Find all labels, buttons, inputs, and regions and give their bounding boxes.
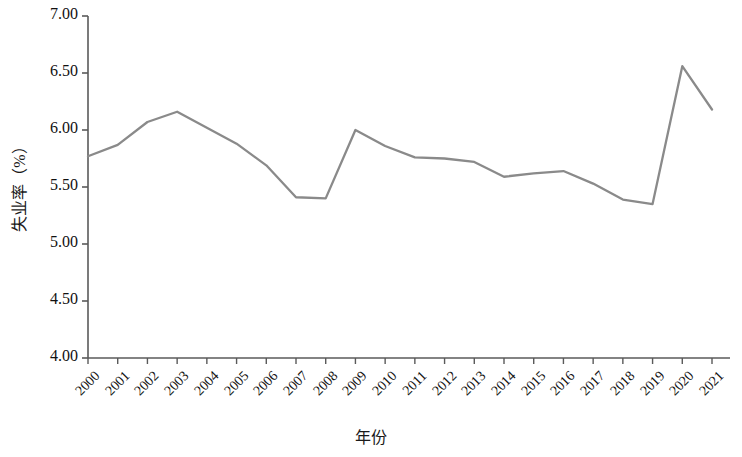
y-axis-tick-label: 4.00 [20, 347, 78, 365]
unemployment-rate-line-chart: 失业率（%） 7.006.506.005.505.004.504.00 2000… [0, 0, 742, 457]
y-axis-tick-label: 6.50 [20, 62, 78, 80]
axes [88, 16, 730, 358]
y-axis-tick-label: 4.50 [20, 290, 78, 308]
y-axis-tick-label: 5.00 [20, 233, 78, 251]
y-axis-tick-label: 7.00 [20, 5, 78, 23]
y-axis-tick-label: 5.50 [20, 176, 78, 194]
data-series-line [88, 66, 712, 204]
y-axis-ticks [82, 16, 88, 358]
x-axis-ticks [88, 358, 712, 364]
y-axis-tick-label: 6.00 [20, 119, 78, 137]
x-axis-label: 年份 [0, 424, 742, 448]
